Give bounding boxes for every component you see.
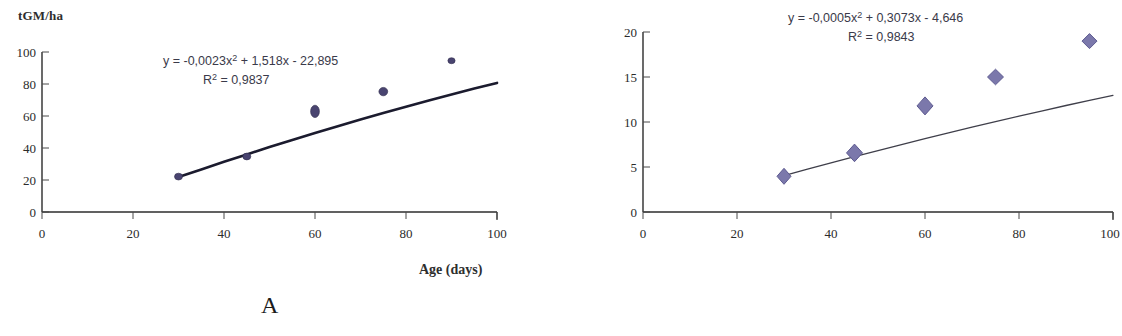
y-tick-label-a-20: 20 xyxy=(23,173,36,188)
y-tick-label-a-0: 0 xyxy=(30,205,37,220)
trendline-b xyxy=(784,95,1113,175)
data-point xyxy=(448,58,455,64)
y-tick-label-a-40: 40 xyxy=(23,141,36,156)
panel-letter-a: A xyxy=(261,292,278,319)
x-tick-label-b-40: 40 xyxy=(825,226,838,241)
y-ticks-b: 0 5 10 15 20 xyxy=(624,25,650,220)
data-point xyxy=(175,173,183,180)
x-tick-label-a-80: 80 xyxy=(400,226,413,241)
x-tick-label-b-80: 80 xyxy=(1013,226,1026,241)
r-squared-text-b: R2 = 0,9843 xyxy=(848,29,915,44)
data-point xyxy=(1082,34,1097,49)
x-ticks-b: 0 20 40 60 80 100 xyxy=(640,212,1120,241)
plot-svg-b: 0 5 10 15 20 0 20 40 60 xyxy=(560,0,1122,280)
y-ticks-a: 0 20 40 60 80 100 xyxy=(17,45,50,220)
data-point xyxy=(917,97,933,115)
x-tick-label-a-40: 40 xyxy=(218,226,231,241)
data-point xyxy=(379,87,388,95)
y-tick-label-a-80: 80 xyxy=(23,77,36,92)
x-tick-label-b-100: 100 xyxy=(1100,226,1120,241)
data-point xyxy=(847,144,863,162)
x-axis-title-a: Age (days) xyxy=(419,262,482,278)
equation-text-a: y = -0,0023x2 + 1,518x - 22,895 xyxy=(163,53,338,68)
figure-container: tGM/ha 0 20 40 xyxy=(0,0,1122,336)
data-point xyxy=(988,69,1004,85)
chart-panel-a: tGM/ha 0 20 40 xyxy=(0,0,560,336)
plot-area-a: 0 20 40 60 80 100 0 20 40 xyxy=(0,0,560,260)
x-tick-label-b-60: 60 xyxy=(919,226,932,241)
equation-text-b: y = -0,0005x2 + 0,3073x - 4,646 xyxy=(788,10,963,25)
y-tick-label-b-5: 5 xyxy=(631,160,638,175)
data-point xyxy=(243,153,251,160)
chart-panel-b: tDM/ha 0 5 10 15 20 xyxy=(560,0,1122,336)
y-tick-label-b-15: 15 xyxy=(624,70,637,85)
r-squared-text-a: R2 = 0,9837 xyxy=(203,72,270,87)
x-tick-label-a-60: 60 xyxy=(309,226,322,241)
x-tick-label-a-20: 20 xyxy=(127,226,140,241)
data-point xyxy=(311,105,320,117)
y-tick-label-b-20: 20 xyxy=(624,25,637,40)
plot-svg-a: 0 20 40 60 80 100 0 20 40 xyxy=(0,0,560,260)
y-tick-label-b-10: 10 xyxy=(624,115,637,130)
trendline-a xyxy=(179,83,498,177)
x-ticks-a: 0 20 40 60 80 100 xyxy=(39,212,507,241)
x-tick-label-b-0: 0 xyxy=(640,226,647,241)
y-tick-label-a-100: 100 xyxy=(17,45,37,60)
x-tick-label-a-0: 0 xyxy=(39,226,46,241)
y-tick-label-b-0: 0 xyxy=(631,205,638,220)
y-tick-label-a-60: 60 xyxy=(23,109,36,124)
data-point xyxy=(777,168,791,184)
x-tick-label-a-100: 100 xyxy=(487,226,507,241)
plot-area-b: 0 5 10 15 20 0 20 40 60 xyxy=(560,0,1122,280)
x-tick-label-b-20: 20 xyxy=(731,226,744,241)
